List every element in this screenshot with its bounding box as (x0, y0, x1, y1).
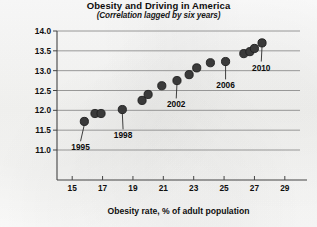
y-tick-label: 11.0 (24, 145, 51, 155)
year-label-2006: 2006 (216, 80, 234, 90)
year-label-2002: 2002 (167, 99, 185, 109)
year-label-1998: 1998 (114, 130, 132, 140)
data-point-2000 (144, 90, 152, 98)
obesity-driving-scatter-chart: Obesity and Driving in America (Correlat… (0, 0, 317, 227)
data-point-2004 (193, 64, 201, 72)
data-point-1995 (80, 117, 88, 125)
data-point-2002 (173, 76, 181, 84)
x-tick-label: 15 (68, 183, 77, 193)
x-tick-label: 17 (98, 183, 107, 193)
annotation-leader-line (176, 84, 177, 99)
y-tick-label: 11.5 (24, 125, 51, 135)
year-label-2010: 2010 (252, 63, 270, 73)
x-tick-label: 19 (128, 183, 137, 193)
data-point-2010 (258, 39, 266, 47)
x-tick-label: 23 (189, 183, 198, 193)
x-tick-label: 21 (159, 183, 168, 193)
year-label-1995: 1995 (71, 142, 89, 152)
data-point-2001 (158, 82, 166, 90)
data-point-2003 (185, 71, 193, 79)
x-tick-label: 29 (280, 183, 289, 193)
x-tick-label: 25 (219, 183, 228, 193)
annotation-leader-line (261, 46, 262, 61)
y-tick-label: 14.0 (24, 26, 51, 36)
y-tick-label: 12.0 (24, 105, 51, 115)
annotation-leader-line (81, 125, 85, 142)
y-tick-label: 13.5 (24, 46, 51, 56)
data-point-1998 (118, 105, 126, 113)
data-point-2006 (221, 57, 229, 65)
x-tick-label: 27 (250, 183, 259, 193)
data-point-2009 (250, 44, 258, 52)
data-point-2005 (206, 59, 214, 67)
annotation-leader-line (122, 113, 123, 130)
y-tick-label: 13.0 (24, 66, 51, 76)
y-tick-label: 12.5 (24, 86, 51, 96)
data-point-1997 (97, 109, 105, 117)
